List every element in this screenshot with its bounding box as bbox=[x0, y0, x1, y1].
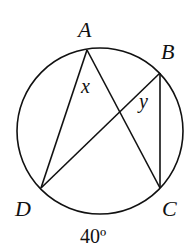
angle-label-y: y bbox=[137, 90, 148, 113]
point-label-b: B bbox=[161, 39, 174, 64]
segment-AD bbox=[41, 50, 87, 188]
angle-label-x: x bbox=[80, 75, 90, 97]
arc-label-40-degrees: 40º bbox=[80, 225, 106, 247]
circle-diagram: A B C D x y 40º bbox=[0, 0, 194, 252]
point-label-d: D bbox=[14, 196, 31, 221]
point-label-c: C bbox=[162, 196, 177, 221]
point-label-a: A bbox=[76, 17, 92, 42]
segment-AC bbox=[87, 50, 160, 188]
